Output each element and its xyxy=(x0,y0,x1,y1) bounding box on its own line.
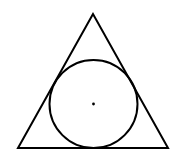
center-point xyxy=(92,103,95,106)
triangle xyxy=(18,14,168,148)
incircle-diagram xyxy=(0,0,180,158)
